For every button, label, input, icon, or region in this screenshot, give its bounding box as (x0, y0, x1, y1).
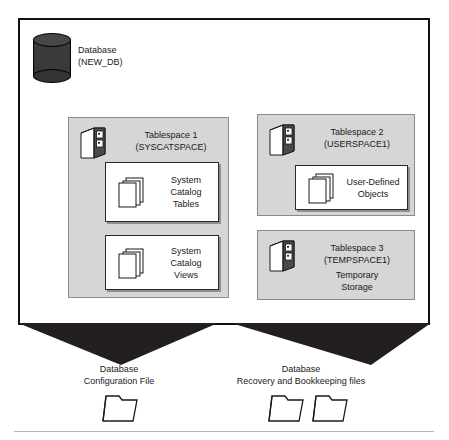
folder-icon (102, 392, 140, 422)
footer-divider (14, 431, 434, 432)
database-recovery-files-caption: Database Recovery and Bookkeeping files (215, 363, 387, 387)
pages-stack-icon (118, 177, 148, 209)
cylinder-bottom-ellipse (33, 69, 71, 83)
tablespace-3-subtitle: Temporary Storage (304, 269, 410, 293)
system-catalog-views-box: System Catalog Views (105, 235, 219, 290)
system-catalog-tables-label: System Catalog Tables (156, 174, 216, 210)
cabinet-icon (269, 124, 295, 156)
tablespace-1-title-line1: Tablespace 1 (117, 129, 225, 141)
sct-label-line2: Catalog (156, 186, 216, 198)
tablespace-2-title: Tablespace 2 (USERSPACE1) (304, 126, 410, 150)
sct-label-line3: Tables (156, 198, 216, 210)
system-catalog-views-label: System Catalog Views (156, 245, 216, 281)
sct-label-line1: System (156, 174, 216, 186)
udo-label-line2: Objects (340, 188, 406, 200)
scv-label-line3: Views (156, 269, 216, 281)
tablespace-1-panel: Tablespace 1 (SYSCATSPACE) System Catalo… (68, 117, 229, 298)
system-catalog-tables-box: System Catalog Tables (105, 162, 219, 222)
scv-label-line2: Catalog (156, 257, 216, 269)
tablespace-3-title-line1: Tablespace 3 (304, 242, 410, 254)
tablespace-1-title-line2: (SYSCATSPACE) (117, 141, 225, 153)
database-label-line2: (NEW_DB) (78, 56, 123, 68)
config-caption-line2: Configuration File (43, 375, 195, 387)
recovery-caption-line1: Database (215, 363, 387, 375)
user-defined-objects-label: User-Defined Objects (340, 176, 406, 200)
configuration-file-folders (102, 392, 140, 422)
pages-stack-icon (118, 248, 148, 280)
tablespace-1-title: Tablespace 1 (SYSCATSPACE) (117, 129, 225, 153)
udo-label-line1: User-Defined (340, 176, 406, 188)
database-configuration-file-caption: Database Configuration File (43, 363, 195, 387)
scv-label-line1: System (156, 245, 216, 257)
funnel-arrows (18, 323, 431, 365)
tablespace-2-panel: Tablespace 2 (USERSPACE1) User-Defined O… (257, 114, 415, 216)
cabinet-icon (80, 127, 106, 159)
recovery-files-folders (268, 392, 350, 422)
folder-icon (312, 392, 350, 422)
cylinder-top-ellipse (33, 33, 71, 47)
config-caption-line1: Database (43, 363, 195, 375)
database-structure-diagram: Database (NEW_DB) Tablespace 1 (SYSCATSP… (0, 0, 449, 440)
cabinet-icon (269, 240, 295, 272)
database-label-line1: Database (78, 44, 123, 56)
database-cylinder-icon (33, 33, 71, 81)
tablespace-2-title-line1: Tablespace 2 (304, 126, 410, 138)
recovery-caption-line2: Recovery and Bookkeeping files (215, 375, 387, 387)
tablespace-3-panel: Tablespace 3 (TEMPSPACE1) Temporary Stor… (257, 230, 415, 300)
funnel-arrow-right (231, 323, 431, 365)
database-label: Database (NEW_DB) (78, 44, 123, 68)
funnel-arrow-left (18, 323, 218, 365)
tablespace-3-title-line2: (TEMPSPACE1) (304, 254, 410, 266)
tablespace-3-subtitle-line1: Temporary (304, 269, 410, 281)
tablespace-2-title-line2: (USERSPACE1) (304, 138, 410, 150)
pages-stack-icon (308, 173, 338, 205)
folder-icon (268, 392, 306, 422)
tablespace-3-subtitle-line2: Storage (304, 281, 410, 293)
user-defined-objects-box: User-Defined Objects (295, 165, 408, 210)
tablespace-3-title: Tablespace 3 (TEMPSPACE1) (304, 242, 410, 266)
